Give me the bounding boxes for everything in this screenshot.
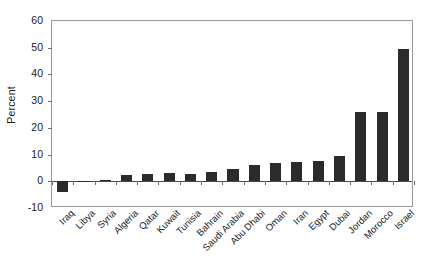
x-axis-tick-label: Israel [393,208,416,231]
bar [249,165,260,181]
x-axis-tick-mark [95,181,96,185]
y-axis-tick-label: 40 [31,67,43,79]
x-axis-tick-mark [350,181,351,185]
y-axis-tick-label: -10 [28,201,43,213]
bar [164,173,175,181]
y-axis-tick-label: 0 [37,174,43,186]
y-axis-tick-mark [48,155,52,156]
x-axis-tick-label: Egypt [307,208,331,232]
x-axis-tick-mark [137,181,138,185]
y-axis-tick-label: 60 [31,14,43,26]
bar [227,169,238,181]
bar [100,180,111,181]
bar [142,174,153,181]
x-axis-tick-mark [52,181,53,185]
x-axis-tick-mark [180,181,181,185]
bar-chart: Percent -100102030405060 IraqLibyaSyriaA… [0,0,427,276]
x-axis-tick-mark [393,181,394,185]
y-axis-tick-mark [48,128,52,129]
bar [121,175,132,182]
y-axis-tick-label: 50 [31,41,43,53]
x-axis-tick-mark [73,181,74,185]
plot-area [51,20,413,207]
bar [334,156,345,181]
bar [355,112,366,181]
x-axis-tick-mark [116,181,117,185]
bar [185,174,196,181]
y-axis-tick-label: 10 [31,148,43,160]
x-axis-tick-mark [308,181,309,185]
y-axis-tick-labels: -100102030405060 [0,0,50,276]
bar [398,49,409,181]
bar [291,162,302,182]
bar [206,172,217,181]
bar [377,112,388,181]
x-axis-tick-mark [414,181,415,185]
x-axis-tick-mark [286,181,287,185]
y-axis-tick-mark [48,48,52,49]
x-axis-tick-label: Oman [263,208,288,233]
bar [57,181,68,192]
y-axis-tick-label: 20 [31,121,43,133]
x-axis-tick-mark [371,181,372,185]
x-axis-tick-labels: IraqLibyaSyriaAlgeriaQatarKuwaitTunisiaB… [51,208,427,276]
x-axis-tick-mark [201,181,202,185]
x-axis-tick-mark [265,181,266,185]
bar [313,161,324,181]
y-axis-tick-mark [48,101,52,102]
bar [270,163,281,182]
bar [78,181,89,182]
x-axis-tick-label: Libya [74,208,97,231]
x-axis-tick-mark [158,181,159,185]
x-axis-tick-mark [244,181,245,185]
x-axis-tick-mark [329,181,330,185]
zero-baseline [52,181,412,182]
y-axis-tick-mark [48,74,52,75]
x-axis-tick-mark [222,181,223,185]
y-axis-tick-label: 30 [31,94,43,106]
